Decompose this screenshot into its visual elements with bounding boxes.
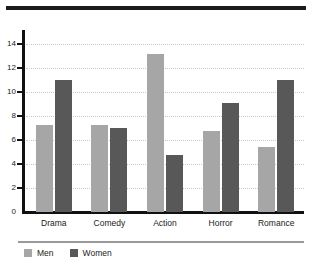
- x-axis-label-romance: Romance: [248, 217, 304, 229]
- bar-chart-figure: 02468101214 DramaComedyActionHorrorRoman…: [0, 0, 312, 267]
- chart-legend: MenWomen: [24, 249, 112, 258]
- x-axis-label-drama: Drama: [26, 217, 82, 229]
- legend-swatch-women: [70, 249, 78, 257]
- bar-horror-women: [222, 103, 239, 212]
- y-axis-tick-label: 10: [0, 88, 16, 96]
- x-axis-label-horror: Horror: [193, 217, 249, 229]
- legend-swatch-men: [24, 249, 32, 257]
- y-axis-tick-label: 14: [0, 40, 16, 48]
- top-divider-rule: [6, 6, 306, 10]
- x-axis-label-action: Action: [137, 217, 193, 229]
- legend-label-women: Women: [83, 249, 112, 258]
- bar-horror-men: [203, 131, 220, 212]
- y-axis-tick-mark: [17, 43, 23, 45]
- y-axis-tick-mark: [17, 115, 23, 117]
- bar-romance-men: [258, 147, 275, 212]
- y-axis-tick-mark: [17, 139, 23, 141]
- bar-comedy-women: [110, 128, 127, 212]
- y-axis-tick-label: 0: [0, 208, 16, 216]
- y-axis-tick-label: 6: [0, 136, 16, 144]
- bar-action-men: [147, 54, 164, 212]
- y-axis-tick-mark: [17, 67, 23, 69]
- legend-item-women[interactable]: Women: [70, 249, 112, 258]
- legend-item-men[interactable]: Men: [24, 249, 54, 258]
- y-axis-tick-label: 2: [0, 184, 16, 192]
- x-axis-category-labels: DramaComedyActionHorrorRomance: [26, 217, 304, 231]
- y-axis-tick-label: 12: [0, 64, 16, 72]
- bar-drama-women: [55, 80, 72, 212]
- y-axis-tick-mark: [17, 91, 23, 93]
- y-axis-tick-label: 4: [0, 160, 16, 168]
- x-axis-label-comedy: Comedy: [82, 217, 138, 229]
- legend-label-men: Men: [37, 249, 54, 258]
- y-axis-tick-label: 8: [0, 112, 16, 120]
- bar-comedy-men: [91, 125, 108, 212]
- y-axis-tick-mark: [17, 187, 23, 189]
- y-axis-tick-mark: [17, 163, 23, 165]
- bars-layer: [26, 36, 304, 212]
- y-axis-tick-labels: 02468101214: [0, 0, 16, 267]
- bar-drama-men: [36, 125, 53, 212]
- bar-romance-women: [277, 80, 294, 212]
- legend-divider-rule: [18, 241, 304, 243]
- bar-action-women: [166, 155, 183, 212]
